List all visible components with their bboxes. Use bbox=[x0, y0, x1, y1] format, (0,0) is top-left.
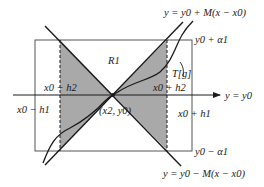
label-left-inner: x0 − h2 bbox=[43, 82, 77, 93]
label-line-upper: y = y0 + M(x − x0) bbox=[163, 7, 246, 19]
lipschitz-region-diagram: y = y0 + M(x − x0) y0 + α1 R1 T[g] x0 − … bbox=[0, 0, 264, 187]
label-point: (x2, y0) bbox=[99, 105, 132, 117]
label-left-outer: x0 − h1 bbox=[16, 104, 50, 115]
label-line-lower: y = y0 − M(x − x0) bbox=[162, 168, 245, 180]
label-top-bound: y0 + α1 bbox=[194, 34, 228, 45]
center-point bbox=[111, 93, 115, 97]
label-right-inner: x0 + h2 bbox=[152, 82, 186, 93]
label-axis: y = y0 bbox=[224, 90, 253, 101]
label-bottom-bound: y0 − α1 bbox=[194, 146, 228, 157]
label-curve: T[g] bbox=[172, 68, 191, 79]
label-region: R1 bbox=[107, 55, 120, 66]
label-right-outer: x0 + h1 bbox=[177, 108, 211, 119]
